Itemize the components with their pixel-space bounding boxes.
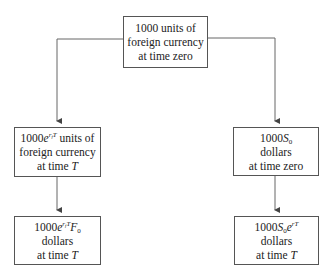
node-right-mid: 1000S0 dollars at time zero [233, 127, 319, 176]
arrow-start-to-left-mid [57, 39, 123, 121]
node-right-bottom-line-2: dollars [261, 234, 292, 248]
node-right-mid-line-1: 1000S0 [260, 131, 292, 145]
time-var: T [72, 160, 78, 172]
time-prefix: at time [256, 249, 291, 261]
node-left-mid-line-3: at time T [37, 159, 78, 173]
node-right-bottom-line-1: 1000S0erT [255, 220, 299, 234]
node-right-mid-line-2: dollars [260, 145, 291, 159]
node-start-line-3: at time zero [138, 49, 192, 63]
node-start-line-1: 1000 units of [135, 21, 196, 35]
amount: 1000 [34, 221, 57, 233]
node-left-mid-line-1: 1000erfT units of [21, 131, 95, 145]
time-var: T [72, 249, 78, 261]
forward-price-sub: 0 [77, 227, 81, 235]
amount: 1000 [21, 132, 44, 144]
node-left-bottom: 1000erfTF0 dollars at time T [14, 216, 101, 265]
exponent: rT [292, 220, 299, 228]
units-text: units of [57, 132, 95, 144]
node-left-bottom-line-3: at time T [37, 248, 78, 262]
time-prefix: at time [37, 249, 72, 261]
node-left-bottom-line-1: 1000erfTF0 [34, 220, 81, 234]
node-left-bottom-line-2: dollars [42, 234, 73, 248]
amount: 1000 [255, 221, 278, 233]
time-var: T [291, 249, 297, 261]
node-start: 1000 units of foreign currency at time z… [123, 16, 208, 68]
node-right-bottom-line-3: at time T [256, 248, 297, 262]
node-left-mid: 1000erfT units of foreign currency at ti… [14, 127, 101, 177]
amount: 1000 [260, 132, 283, 144]
time-prefix: at time [37, 160, 72, 172]
node-right-mid-line-3: at time zero [249, 159, 303, 173]
exponent: rfT [49, 131, 57, 139]
node-right-bottom: 1000S0erT dollars at time T [234, 216, 319, 265]
node-start-line-2: foreign currency [127, 35, 203, 49]
arrow-start-to-right-mid [207, 38, 275, 121]
node-left-mid-line-2: foreign currency [19, 145, 95, 159]
